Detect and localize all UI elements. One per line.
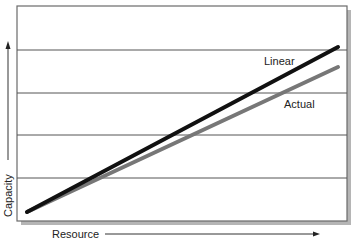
plot-frame bbox=[17, 6, 347, 221]
linear-label: Linear bbox=[264, 55, 295, 67]
y-axis-arrow-icon bbox=[6, 41, 11, 49]
x-axis-arrow-icon bbox=[313, 232, 320, 237]
x-axis-label: Resource bbox=[52, 228, 99, 240]
y-axis-label: Capacity bbox=[2, 174, 14, 217]
actual-label: Actual bbox=[284, 98, 315, 110]
capacity-resource-chart: Linear Actual Resource Capacity bbox=[0, 0, 353, 244]
